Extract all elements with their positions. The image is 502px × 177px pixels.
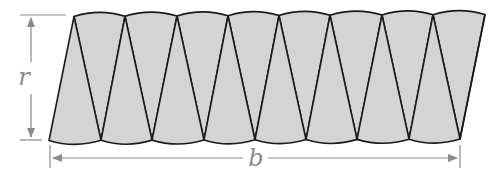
sector-parallelogram-diagram: r b xyxy=(0,0,502,177)
base-dimension: b xyxy=(50,144,460,172)
height-label-r: r xyxy=(18,63,31,91)
base-label-b: b xyxy=(248,144,263,172)
sectors-group xyxy=(49,11,485,145)
